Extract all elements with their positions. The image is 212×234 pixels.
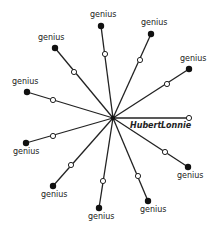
spoke-8: genius bbox=[113, 118, 167, 214]
hollow-node-icon bbox=[135, 173, 140, 178]
spoke-4: genius bbox=[12, 77, 113, 118]
lonnie-label: Lonnie bbox=[161, 121, 192, 130]
hollow-node-icon bbox=[100, 178, 105, 183]
genius-label: genius bbox=[13, 147, 40, 156]
filled-node-icon bbox=[148, 31, 154, 37]
hollow-node-icon bbox=[137, 57, 142, 62]
center-hub-icon bbox=[111, 116, 115, 120]
genius-label: genius bbox=[140, 205, 167, 214]
filled-node-icon bbox=[145, 198, 151, 204]
spoke-line bbox=[101, 26, 113, 118]
filled-node-icon bbox=[98, 23, 104, 29]
spoke-line bbox=[26, 118, 113, 143]
genius-label: genius bbox=[88, 212, 115, 221]
genius-label: genius bbox=[90, 10, 117, 19]
hollow-node-icon bbox=[71, 69, 76, 74]
hollow-node-icon bbox=[162, 149, 167, 154]
filled-node-icon bbox=[52, 45, 58, 51]
hollow-node-icon bbox=[186, 115, 191, 120]
filled-node-icon bbox=[24, 89, 30, 95]
filled-node-icon bbox=[50, 183, 56, 189]
filled-node-icon bbox=[185, 164, 191, 170]
spoke-line bbox=[55, 48, 113, 118]
spoke-5: genius bbox=[13, 118, 113, 156]
genius-label: genius bbox=[12, 77, 39, 86]
genius-label: genius bbox=[141, 18, 168, 27]
genius-label: genius bbox=[177, 171, 204, 180]
spoke-line bbox=[113, 118, 148, 201]
hubert-lonnie-link: HubertLonnie bbox=[113, 115, 192, 130]
filled-node-icon bbox=[186, 66, 192, 72]
genius-network-diagram: geniusgeniusgeniusgeniusgeniusgeniusgeni… bbox=[0, 0, 212, 234]
spoke-7: genius bbox=[88, 118, 115, 221]
genius-label: genius bbox=[38, 33, 65, 42]
hubert-label: Hubert bbox=[130, 121, 162, 130]
hollow-node-icon bbox=[50, 97, 55, 102]
hollow-node-icon bbox=[164, 81, 169, 86]
hollow-node-icon bbox=[50, 133, 55, 138]
genius-label: genius bbox=[180, 54, 207, 63]
filled-node-icon bbox=[96, 205, 102, 211]
spoke-1: genius bbox=[90, 10, 117, 118]
hollow-node-icon bbox=[68, 162, 73, 167]
diagram-svg: geniusgeniusgeniusgeniusgeniusgeniusgeni… bbox=[0, 0, 212, 234]
filled-node-icon bbox=[23, 140, 29, 146]
spoke-0: genius bbox=[38, 33, 113, 118]
genius-label: genius bbox=[41, 190, 68, 199]
hollow-node-icon bbox=[102, 51, 107, 56]
spoke-2: genius bbox=[113, 18, 168, 118]
spoke-line bbox=[27, 92, 113, 118]
